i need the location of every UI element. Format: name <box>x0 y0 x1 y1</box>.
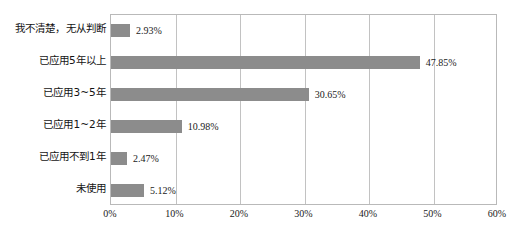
bar <box>111 120 182 133</box>
x-tick-label: 40% <box>359 207 377 221</box>
bar-value-label: 30.65% <box>315 88 346 101</box>
category-axis-labels: 我不清楚，无从判断已应用5年以上已应用3~5年已应用1~2年已应用不到1年未使用 <box>0 14 106 205</box>
gridline <box>369 15 370 204</box>
category-label: 我不清楚，无从判断 <box>0 22 106 35</box>
bar-value-label: 5.12% <box>150 184 176 197</box>
bar-value-label: 47.85% <box>426 56 457 69</box>
gridline <box>305 15 306 204</box>
x-tick-label: 10% <box>165 207 183 221</box>
category-label: 已应用不到1年 <box>0 150 106 163</box>
gridline <box>176 15 177 204</box>
x-axis-tick-labels: 0%10%20%30%40%50%60% <box>110 207 497 223</box>
bar-value-label: 10.98% <box>188 120 219 133</box>
x-tick-label: 20% <box>230 207 248 221</box>
bar-value-label: 2.47% <box>133 152 159 165</box>
gridline <box>434 15 435 204</box>
plot-area: 2.93%47.85%30.65%10.98%2.47%5.12% <box>110 14 497 205</box>
category-label: 已应用3~5年 <box>0 86 106 99</box>
bar-value-label: 2.93% <box>136 24 162 37</box>
bar <box>111 184 144 197</box>
x-tick-label: 60% <box>488 207 506 221</box>
gridline <box>240 15 241 204</box>
category-label: 已应用1~2年 <box>0 118 106 131</box>
bar <box>111 152 127 165</box>
x-tick-label: 50% <box>423 207 441 221</box>
bar <box>111 88 309 101</box>
bar <box>111 24 130 37</box>
x-tick-label: 0% <box>103 207 116 221</box>
category-label: 已应用5年以上 <box>0 54 106 67</box>
x-tick-label: 30% <box>294 207 312 221</box>
horizontal-bar-chart: 我不清楚，无从判断已应用5年以上已应用3~5年已应用1~2年已应用不到1年未使用… <box>0 0 516 243</box>
bar <box>111 56 420 69</box>
category-label: 未使用 <box>0 182 106 195</box>
